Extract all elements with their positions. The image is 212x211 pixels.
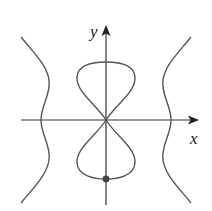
x-axis-label: x: [189, 129, 198, 148]
diagram-figure: y x: [0, 0, 212, 211]
plot-canvas: y x: [0, 0, 212, 211]
y-axis-label: y: [88, 22, 98, 41]
bottom-point-marker: [103, 176, 110, 183]
